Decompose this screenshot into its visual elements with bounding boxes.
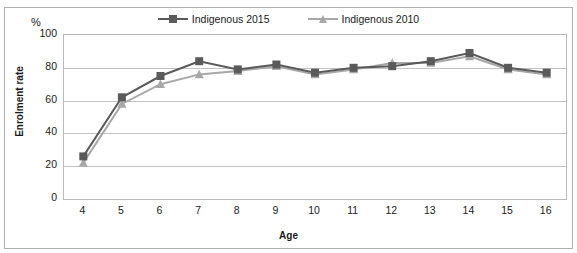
legend-label-2010: Indigenous 2010: [342, 13, 420, 25]
data-point-marker: [388, 62, 396, 70]
x-tick-label: 5: [106, 204, 136, 216]
data-point-marker: [543, 69, 551, 77]
y-tick-label: 100: [27, 27, 57, 39]
x-tick-label: 4: [67, 204, 97, 216]
x-tick-label: 6: [145, 204, 175, 216]
data-point-marker: [350, 64, 358, 72]
x-tick-label: 16: [531, 204, 561, 216]
data-point-marker: [311, 69, 319, 77]
data-point-marker: [466, 49, 474, 57]
data-point-marker: [427, 57, 435, 65]
cut-off-caption: [0, 0, 577, 7]
x-tick-label: 15: [492, 204, 522, 216]
legend-label-2015: Indigenous 2015: [192, 13, 270, 25]
y-axis-title: Enrolment rate: [14, 42, 25, 162]
data-point-marker: [195, 57, 203, 65]
data-point-marker: [272, 61, 280, 69]
chart-legend: Indigenous 2015 Indigenous 2010: [5, 13, 572, 25]
chart-frame: Indigenous 2015 Indigenous 2010 % Enrolm…: [4, 7, 573, 249]
x-axis-title: Age: [5, 230, 572, 241]
x-tick-label: 13: [415, 204, 445, 216]
data-point-marker: [79, 152, 87, 160]
x-tick-label: 11: [338, 204, 368, 216]
y-tick-label: 40: [27, 125, 57, 137]
legend-marker-icon-2010: [308, 14, 338, 25]
data-point-marker: [118, 93, 126, 101]
y-tick-label: 0: [27, 191, 57, 203]
series-container: [64, 35, 566, 199]
x-tick-label: 10: [299, 204, 329, 216]
data-point-marker: [157, 72, 165, 80]
x-tick-label: 12: [376, 204, 406, 216]
legend-item-indigenous-2015[interactable]: Indigenous 2015: [158, 13, 270, 25]
x-tick-label: 8: [222, 204, 252, 216]
y-tick-label: 60: [27, 93, 57, 105]
legend-marker-icon-2015: [158, 14, 188, 25]
plot-area: [63, 34, 567, 200]
x-tick-label: 7: [183, 204, 213, 216]
chart-figure: Indigenous 2015 Indigenous 2010 % Enrolm…: [0, 0, 577, 253]
x-tick-label: 9: [260, 204, 290, 216]
data-point-marker: [234, 65, 242, 73]
legend-item-indigenous-2010[interactable]: Indigenous 2010: [308, 13, 420, 25]
data-point-marker: [504, 64, 512, 72]
y-tick-label: 80: [27, 60, 57, 72]
series-line-indigenous-2015: [83, 53, 546, 156]
y-tick-label: 20: [27, 158, 57, 170]
x-tick-label: 14: [453, 204, 483, 216]
